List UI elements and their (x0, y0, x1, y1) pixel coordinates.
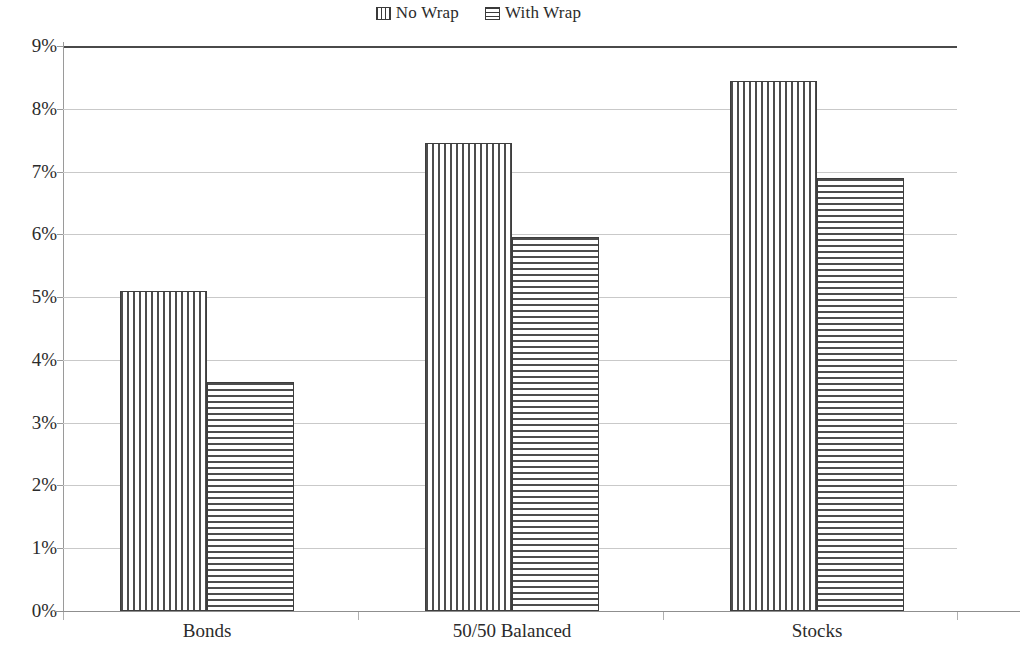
y-axis-line (63, 42, 64, 615)
y-axis-tick-label: 2% (3, 474, 57, 496)
y-axis-tick-label: 6% (3, 223, 57, 245)
y-axis-tick-label: 1% (3, 537, 57, 559)
legend-entry-with-wrap: With Wrap (485, 3, 581, 23)
x-axis-tick-mark (663, 611, 664, 620)
x-axis-tick-label: Stocks (792, 620, 843, 642)
y-axis-tick-label: 9% (3, 35, 57, 57)
x-axis-tick-mark (957, 611, 958, 620)
y-axis-tick-label: 5% (3, 286, 57, 308)
y-axis-tick-mark (57, 172, 63, 173)
y-axis-tick-mark (57, 360, 63, 361)
y-axis-tick-mark (57, 485, 63, 486)
y-axis-tick-label: 0% (3, 600, 57, 622)
y-axis-tick-label: 7% (3, 161, 57, 183)
bar (120, 291, 207, 611)
y-axis-tick-label: 8% (3, 98, 57, 120)
plot-area (63, 46, 957, 611)
y-axis-labels: 0%1%2%3%4%5%6%7%8%9% (0, 46, 57, 611)
y-axis-tick-mark (57, 548, 63, 549)
y-axis-tick-label: 4% (3, 349, 57, 371)
x-axis-tick-mark (63, 611, 64, 620)
y-axis-tick-mark (57, 423, 63, 424)
x-axis-baseline (55, 611, 1020, 612)
bar (512, 237, 599, 611)
y-axis-tick-mark (57, 109, 63, 110)
bar (817, 178, 904, 611)
y-axis-tick-label: 3% (3, 412, 57, 434)
x-axis-labels: Bonds50/50 BalancedStocks (63, 620, 957, 651)
bar (730, 81, 817, 611)
plot-top-border (63, 46, 957, 48)
legend-swatch-vertical-stripes-icon (376, 7, 391, 20)
x-axis-tick-mark (358, 611, 359, 620)
y-axis-tick-mark (57, 234, 63, 235)
x-axis-tick-label: Bonds (183, 620, 232, 642)
y-axis-tick-mark (57, 297, 63, 298)
x-axis-tick-label: 50/50 Balanced (453, 620, 572, 642)
legend-label-no-wrap: No Wrap (396, 3, 459, 23)
bar (425, 143, 512, 611)
legend-entry-no-wrap: No Wrap (376, 3, 459, 23)
legend-swatch-horizontal-stripes-icon (485, 7, 500, 20)
gridline (63, 109, 957, 110)
y-axis-tick-mark (57, 46, 63, 47)
legend-label-with-wrap: With Wrap (505, 3, 581, 23)
bar (207, 382, 294, 611)
chart-legend: No Wrap With Wrap (0, 0, 957, 26)
